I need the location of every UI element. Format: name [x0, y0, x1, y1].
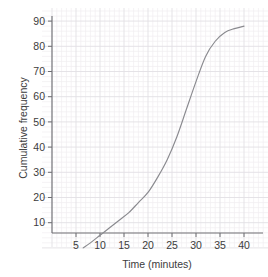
y-tick-label: 40 — [33, 141, 45, 153]
y-tick-label: 80 — [33, 40, 45, 52]
chart-canvas: 102030405060708090 510152025303540 Time … — [0, 0, 268, 277]
y-tick-label: 30 — [33, 166, 45, 178]
x-tick-label: 35 — [214, 239, 226, 251]
x-axis-title: Time (minutes) — [122, 258, 192, 270]
y-tick-label: 60 — [33, 90, 45, 102]
x-tick-label: 30 — [190, 239, 202, 251]
y-tick-labels: 102030405060708090 — [33, 15, 45, 229]
y-tick-label: 90 — [33, 15, 45, 27]
y-tick-label: 70 — [33, 65, 45, 77]
y-axis-title: Cumulative frequency — [17, 76, 29, 178]
x-tick-label: 5 — [73, 239, 79, 251]
x-tick-labels: 510152025303540 — [73, 239, 250, 251]
x-tick-label: 25 — [166, 239, 178, 251]
cumulative-frequency-chart: 102030405060708090 510152025303540 Time … — [0, 0, 268, 277]
x-tick-label: 15 — [118, 239, 130, 251]
y-tick-label: 20 — [33, 191, 45, 203]
x-tick-label: 40 — [238, 239, 250, 251]
y-tick-label: 50 — [33, 116, 45, 128]
y-tick-label: 10 — [33, 216, 45, 228]
x-tick-label: 10 — [94, 239, 106, 251]
tick-marks — [48, 21, 244, 237]
x-tick-label: 20 — [142, 239, 154, 251]
